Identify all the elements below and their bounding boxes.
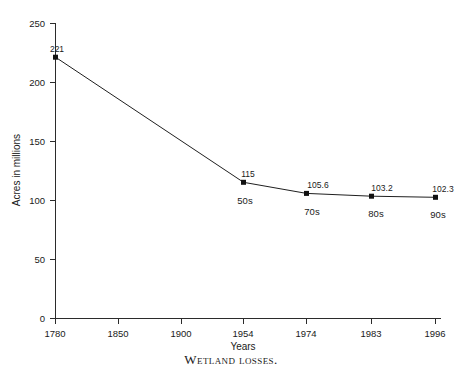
y-tick-label-50: 50 [34,254,45,265]
data-label-value-1974: 105.6 [307,180,329,190]
y-tick-label-100: 100 [29,195,45,206]
y-axis-title: Acres in millions [11,134,22,206]
x-axis-title: Years [230,341,255,352]
data-label-era-70s: 70s [304,206,320,217]
data-label-era-50s: 50s [237,195,253,206]
data-label-era-90s: 90s [430,209,446,220]
x-tick-label-1850: 1850 [107,328,128,339]
data-label-value-1954: 115 [241,169,255,179]
y-tick-label-150: 150 [29,136,45,147]
x-tick-label-1900: 1900 [170,328,191,339]
data-label-era-80s: 80s [368,208,384,219]
data-point-1954 [241,180,246,185]
data-point-1780 [53,55,58,60]
data-point-1974 [304,191,309,196]
figure-caption: Wetland losses. [0,352,462,368]
x-tick-label-1996: 1996 [424,328,445,339]
x-tick-label-1780: 1780 [44,328,65,339]
data-label-value-1983: 103.2 [371,183,393,193]
wetland-losses-figure: 0 50 100 150 200 250 1780 1850 1900 1954… [0,0,462,375]
data-point-1996 [433,195,438,200]
x-tick-label-1954: 1954 [232,328,253,339]
data-point-1983 [369,194,374,199]
line-chart: 0 50 100 150 200 250 1780 1850 1900 1954… [0,0,462,375]
y-tick-label-200: 200 [29,77,45,88]
x-tick-label-1974: 1974 [295,328,316,339]
y-tick-label-250: 250 [29,18,45,29]
data-label-value-1780: 221 [50,44,64,54]
x-tick-label-1983: 1983 [360,328,381,339]
y-tick-label-0: 0 [40,313,45,324]
data-label-value-1996: 102.3 [432,184,454,194]
